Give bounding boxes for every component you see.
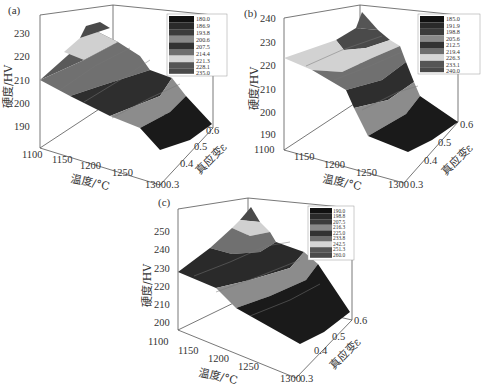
x-axis-label: 温度/°C (197, 365, 239, 384)
panel-label-a: (a) (8, 4, 21, 17)
legend-level: 214.4 (196, 50, 210, 57)
panel-label-c: (c) (158, 196, 171, 209)
z-tick: 240 (260, 13, 276, 24)
surface-band (240, 207, 260, 222)
z-tick: 240 (154, 244, 170, 255)
legend-level: 240.0 (446, 67, 460, 74)
y-tick: 0.4 (424, 155, 438, 166)
colorbar-legend-a: 180.0 186.9 193.8 200.6 207.5 214.4 221.… (167, 14, 227, 76)
y-tick: 0.3 (166, 179, 179, 190)
z-axis-label: 硬度/HV (247, 66, 261, 110)
panel-label-b: (b) (244, 7, 257, 20)
z-tick: 200 (14, 98, 30, 109)
legend-level: 235.0 (196, 69, 210, 76)
z-tick: 250 (154, 226, 170, 237)
z-tick: 230 (260, 37, 276, 48)
y-tick: 0.4 (314, 345, 328, 356)
x-tick: 1100 (22, 149, 43, 160)
x-tick: 1250 (238, 361, 259, 372)
z-tick: 200 (154, 317, 170, 328)
y-tick: 0.4 (180, 158, 194, 169)
x-tick: 1300 (388, 179, 409, 190)
legend-level: 180.0 (196, 15, 210, 22)
y-tick: 0.3 (300, 373, 313, 384)
y-tick: 0.6 (206, 125, 219, 136)
x-tick: 1300 (280, 373, 301, 384)
x-tick: 1200 (324, 159, 345, 170)
plot-c-svg: (c) 250 240 230 220 210 200 硬度/HV 1100 1… (120, 192, 370, 384)
x-tick: 1100 (254, 144, 275, 155)
plot-b-svg: (b) 240 230 220 210 200 190 硬度/HV 1100 1… (242, 0, 483, 190)
legend-level: 186.9 (196, 22, 210, 29)
x-tick: 1250 (112, 167, 133, 178)
x-tick: 1200 (208, 353, 229, 364)
z-axis-label: 硬度/HV (140, 263, 154, 307)
legend-level: 207.5 (196, 43, 210, 50)
x-tick: 1100 (148, 336, 169, 347)
surface-band (356, 12, 378, 30)
z-tick: 220 (14, 51, 30, 62)
z-tick: 230 (154, 263, 170, 274)
floor-back-left (284, 100, 360, 150)
y-tick: 0.5 (332, 331, 345, 342)
surface-plot-c: (c) 250 240 230 220 210 200 硬度/HV 1100 1… (120, 192, 370, 384)
z-tick: 190 (260, 129, 276, 140)
y-tick: 0.5 (438, 137, 451, 148)
z-tick: 220 (154, 281, 170, 292)
y-tick: 0.6 (460, 119, 473, 130)
z-tick: 210 (154, 299, 170, 310)
z-tick: 220 (260, 60, 276, 71)
x-tick: 1150 (52, 154, 73, 165)
y-tick: 0.5 (194, 141, 207, 152)
x-axis-label: 温度/°C (69, 171, 111, 193)
x-tick: 1150 (178, 345, 199, 356)
surface-plot-b: (b) 240 230 220 210 200 190 硬度/HV 1100 1… (242, 0, 483, 190)
surface-plot-a: (a) 230 220 210 200 190 硬度/HV 1100 1150 … (0, 0, 240, 190)
x-tick: 1150 (294, 151, 315, 162)
colorbar-legend-c: 190.0 198.8 207.5 216.3 225.0 233.8 242.… (308, 206, 354, 260)
legend-level: 193.8 (196, 29, 210, 36)
x-tick: 1200 (80, 160, 101, 171)
x-tick: 1250 (356, 167, 377, 178)
z-tick: 230 (14, 28, 30, 39)
z-tick: 210 (260, 84, 276, 95)
z-tick: 200 (260, 107, 276, 118)
x-tick: 1300 (145, 179, 166, 190)
y-tick: 0.3 (410, 179, 423, 190)
legend-level: 260.0 (333, 252, 345, 258)
z-tick: 190 (14, 121, 30, 132)
z-axis-label: 硬度/HV (1, 64, 15, 108)
colorbar-legend-b: 185.0 191.9 198.8 205.6 212.5 219.4 226.… (418, 14, 480, 74)
legend-level: 200.6 (196, 36, 210, 43)
y-tick: 0.6 (354, 315, 367, 326)
z-tick: 210 (14, 75, 30, 86)
plot-a-svg: (a) 230 220 210 200 190 硬度/HV 1100 1150 … (0, 0, 240, 190)
